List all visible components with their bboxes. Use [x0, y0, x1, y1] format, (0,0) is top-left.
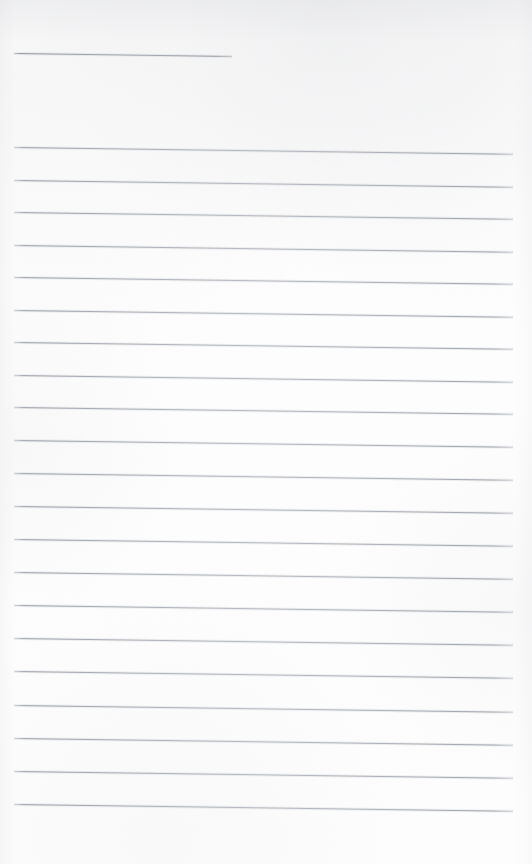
rule-line: [14, 212, 513, 220]
rule-line: [14, 638, 513, 646]
lined-paper-page: [0, 0, 532, 864]
rule-line: [14, 738, 513, 746]
rule-line: [14, 342, 513, 350]
rule-line: [14, 572, 513, 580]
rule-line: [14, 277, 513, 285]
ruled-lines-layer: [0, 0, 532, 864]
rule-line: [14, 440, 513, 448]
header-rule-line: [14, 53, 232, 57]
rule-line: [14, 473, 513, 481]
rule-line: [14, 705, 513, 713]
rule-line: [14, 671, 513, 679]
rule-line: [14, 147, 513, 155]
rule-line: [14, 245, 513, 253]
rule-line: [14, 506, 513, 514]
rule-line: [14, 605, 513, 613]
rule-line: [14, 375, 513, 383]
rule-line: [14, 407, 513, 415]
rule-line: [14, 804, 513, 812]
rule-line: [14, 310, 513, 318]
rule-line: [14, 771, 513, 779]
rule-line: [14, 539, 513, 547]
rule-line: [14, 180, 513, 188]
